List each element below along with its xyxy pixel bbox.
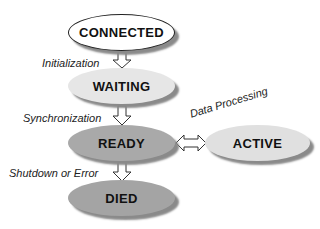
state-active-label: ACTIVE: [233, 136, 282, 151]
edge-label-synchronization: Synchronization: [23, 112, 101, 124]
state-ready: READY: [68, 125, 175, 161]
state-ready-label: READY: [98, 136, 145, 151]
edge-label-shutdown-or-error: Shutdown or Error: [9, 167, 98, 179]
state-died: DIED: [68, 180, 175, 216]
arrow-waiting-to-ready: [112, 106, 132, 126]
state-died-label: DIED: [105, 191, 137, 206]
edge-label-initialization: Initialization: [42, 57, 99, 69]
state-diagram: CONNECTED WAITING READY ACTIVE DIED Init…: [0, 0, 320, 229]
state-waiting-label: WAITING: [93, 79, 151, 94]
state-active: ACTIVE: [205, 125, 310, 161]
arrow-ready-active-bidirectional: [175, 134, 207, 152]
state-connected: CONNECTED: [68, 14, 175, 51]
arrow-ready-to-died: [112, 162, 132, 182]
edge-label-data-processing: Data Processing: [188, 85, 269, 120]
arrow-connected-to-waiting: [112, 51, 132, 69]
state-waiting: WAITING: [68, 68, 175, 104]
state-connected-label: CONNECTED: [79, 25, 164, 40]
